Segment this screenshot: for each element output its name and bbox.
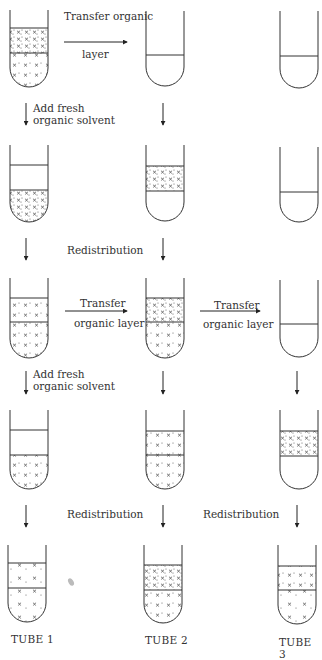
tube-1-step-1 — [10, 10, 48, 87]
label-transfer-3a-2: organic layer — [74, 317, 144, 329]
label-redistribution-2: Redistribution — [67, 244, 143, 256]
tube-3-label: TUBE 3 — [279, 636, 322, 660]
tube-2-label: TUBE 2 — [145, 634, 188, 646]
label-transfer-3a-1: Transfer — [80, 297, 126, 309]
label-redistribution-4a: Redistribution — [67, 508, 143, 520]
smudge-mark — [67, 577, 75, 586]
label-transfer-3b-2: organic layer — [203, 318, 273, 330]
label-add-fresh-3a: Add fresh — [33, 368, 85, 380]
row-2 — [10, 145, 318, 260]
tube-1-label: TUBE 1 — [11, 633, 54, 645]
tube-1-step-5 — [8, 545, 46, 622]
tube-3-step-2 — [280, 147, 318, 222]
tube-1-step-4 — [10, 410, 48, 489]
label-redistribution-4b: Redistribution — [203, 508, 279, 520]
label-add-fresh-1a: Add fresh — [33, 102, 85, 114]
tube-2-step-5 — [144, 545, 182, 623]
tube-3-step-5 — [278, 545, 316, 624]
tube-3-step-1 — [280, 11, 318, 88]
tube-3-step-3 — [280, 280, 318, 357]
tube-2-step-1 — [146, 11, 184, 86]
label-transfer-organic-1a: Transfer organic — [64, 10, 153, 22]
label-transfer-organic-1b: layer — [82, 48, 109, 60]
tube-3-step-4 — [280, 410, 318, 489]
tube-2-step-4 — [146, 410, 184, 489]
label-add-fresh-3b: organic solvent — [33, 380, 115, 392]
label-transfer-3b-1: Transfer — [214, 299, 260, 311]
label-add-fresh-1b: organic solvent — [33, 114, 115, 126]
tube-1-step-2 — [10, 145, 48, 222]
tube-1-step-3 — [10, 278, 48, 358]
tube-2-step-3 — [146, 278, 184, 358]
row-5 — [8, 545, 316, 624]
tube-2-step-2 — [146, 145, 184, 221]
